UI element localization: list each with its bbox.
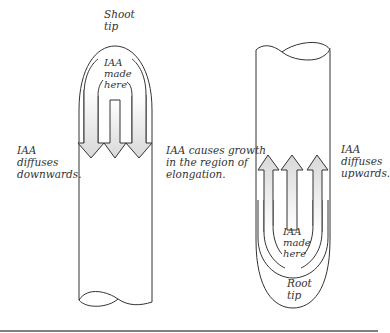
shoot-diffusion-label: IAA diffuses downwards. bbox=[17, 144, 82, 180]
shoot-tip-line-2: tip bbox=[104, 20, 135, 32]
shoot-tip-label: Shoot tip bbox=[104, 8, 135, 32]
shoot-source-line-2: made bbox=[104, 68, 132, 79]
root-tip-line-2: tip bbox=[287, 289, 312, 301]
shoot-source-line-1: IAA bbox=[104, 57, 132, 68]
root-source-line-3: here bbox=[283, 248, 311, 259]
root-source-label: IAA made here bbox=[283, 226, 311, 259]
root-tip-label: Root tip bbox=[287, 277, 312, 301]
shoot-tip-line-1: Shoot bbox=[104, 8, 135, 20]
root-arrows-up-icon bbox=[258, 155, 328, 232]
root-source-line-1: IAA bbox=[283, 226, 311, 237]
shoot-arrows-down-icon bbox=[78, 90, 152, 158]
shoot-growth-line-1: IAA causes growth bbox=[166, 144, 266, 156]
shoot-diffusion-line-1: IAA bbox=[17, 144, 82, 156]
shoot-source-label: IAA made here bbox=[104, 57, 132, 90]
root-tip-line-1: Root bbox=[287, 277, 312, 289]
shoot-diffusion-line-3: downwards. bbox=[17, 168, 82, 180]
shoot-growth-line-2: in the region of bbox=[166, 156, 266, 168]
shoot-growth-line-3: elongation. bbox=[166, 168, 266, 180]
root-diffusion-line-3: upwards. bbox=[341, 167, 390, 179]
shoot-growth-label: IAA causes growth in the region of elong… bbox=[166, 144, 266, 180]
shoot-source-line-3: here bbox=[104, 79, 132, 90]
root-source-line-2: made bbox=[283, 237, 311, 248]
root-diffusion-label: IAA diffuses upwards. bbox=[341, 143, 390, 179]
root-diffusion-line-2: diffuses bbox=[341, 155, 390, 167]
root-diffusion-line-1: IAA bbox=[341, 143, 390, 155]
shoot-diffusion-line-2: diffuses bbox=[17, 156, 82, 168]
